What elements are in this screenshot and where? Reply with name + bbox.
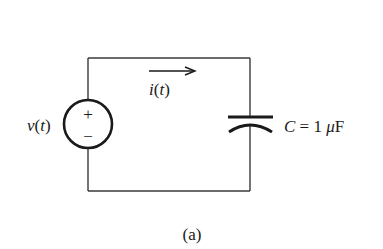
capacitor-label-unit: F: [335, 117, 344, 136]
current-label: i(t): [149, 80, 170, 99]
circuit-diagram: + − v(t) i(t) C = 1 μF (a): [0, 0, 383, 249]
source-label-close: ): [45, 116, 51, 135]
capacitor-label: C = 1 μF: [284, 117, 344, 136]
minus-sign: −: [83, 127, 93, 146]
current-label-close: ): [164, 80, 170, 99]
voltage-source: + −: [64, 100, 112, 148]
figure-caption: (a): [183, 225, 202, 244]
capacitor-label-c: C: [284, 117, 296, 136]
current-arrow-icon: [149, 67, 195, 75]
plus-sign: +: [83, 105, 93, 124]
capacitor-label-value: = 1: [295, 117, 326, 136]
capacitor-label-mu: μ: [325, 117, 335, 136]
source-label: v(t): [27, 116, 51, 135]
